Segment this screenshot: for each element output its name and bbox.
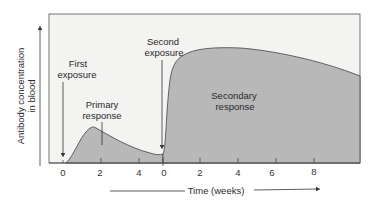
tick-label: 2 bbox=[197, 167, 202, 178]
x-tick-labels: 0 2 4 0 2 4 6 8 bbox=[60, 166, 316, 178]
first-exposure-label: First bbox=[69, 58, 88, 69]
tick-label: 6 bbox=[269, 167, 274, 178]
tick-label: 4 bbox=[235, 167, 240, 178]
first-exposure-label-line2: exposure bbox=[57, 69, 96, 80]
tick-label: 0 bbox=[161, 167, 166, 178]
y-axis-label-line2: in blood bbox=[26, 79, 37, 112]
x-axis-label: Time (weeks) bbox=[188, 185, 245, 196]
y-axis-label: Antibody concentration bbox=[15, 48, 26, 145]
secondary-response-label: Secondary bbox=[211, 90, 257, 101]
tick-label: 0 bbox=[60, 167, 65, 178]
primary-response-label: Primary bbox=[86, 99, 119, 110]
x-axis-arrow bbox=[254, 189, 318, 190]
tick-label: 2 bbox=[97, 167, 102, 178]
antibody-response-chart: 0 2 4 0 2 4 6 8 Antibody concentration i… bbox=[0, 0, 376, 207]
second-exposure-label-line2: exposure bbox=[144, 47, 183, 58]
secondary-response-label-line2: response bbox=[215, 101, 254, 112]
tick-label: 8 bbox=[311, 166, 316, 177]
tick-label: 4 bbox=[136, 167, 141, 178]
second-exposure-label: Second bbox=[147, 36, 179, 47]
primary-response-label-line2: response bbox=[82, 110, 121, 121]
